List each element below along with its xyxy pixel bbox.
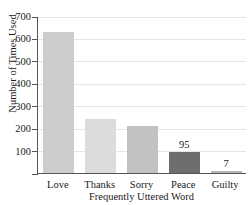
y-axis-tick [32,174,38,175]
plot-area: 100200300400500600700957 [37,17,246,174]
bar-guilty: 7 [211,171,242,173]
y-axis-tick [32,39,38,40]
y-axis-tick-label: 600 [3,32,31,45]
x-axis-tick-label: Thanks [79,178,121,191]
bar-peace: 95 [169,152,200,173]
x-axis-tick-label: Love [37,178,79,191]
y-axis-tick [32,84,38,85]
x-axis-tick-label: Guilty [204,178,246,191]
x-axis-tick-label: Sorry [121,178,163,191]
bar-value-label: 7 [223,158,228,170]
y-axis-tick [32,106,38,107]
y-axis-tick [32,129,38,130]
bar-value-label: 95 [179,139,190,151]
y-axis-tick [32,61,38,62]
y-axis-tick-label: 100 [3,145,31,158]
y-axis-tick-label: 700 [3,10,31,23]
y-axis-tick-label: 400 [3,77,31,90]
bar-love [43,32,74,173]
chart-title: of Death-Row Inmates [0,0,251,2]
gridline [38,17,246,18]
x-axis-tick-label: Peace [162,178,204,191]
y-axis-tick-label: 500 [3,55,31,68]
y-axis-tick-label: 300 [3,100,31,113]
x-axis-title: Frequently Uttered Word [37,191,246,202]
y-axis-tick [32,151,38,152]
bar-thanks [85,119,116,173]
y-axis-tick-label: 200 [3,122,31,135]
bar-sorry [127,126,158,173]
bar-chart: of Death-Row Inmates Number of Times Use… [0,0,251,205]
y-axis-tick [32,17,38,18]
